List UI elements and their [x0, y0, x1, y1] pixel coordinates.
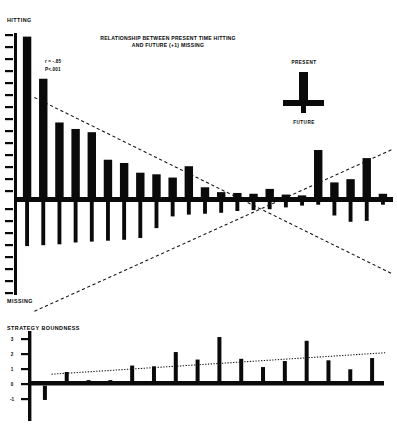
upper-bar-future: [284, 202, 288, 207]
lower-bar: [87, 380, 91, 381]
upper-bar-present: [314, 150, 322, 197]
upper-bar-future: [122, 202, 126, 240]
lower-ytick-2: 2: [11, 352, 14, 357]
upper-bar-present: [265, 189, 273, 197]
upper-bar-future: [365, 202, 369, 221]
lower-zero-baseline: [28, 381, 384, 386]
upper-bar-present: [39, 79, 47, 197]
upper-bar-future: [138, 202, 142, 238]
legend-present-bar: [299, 72, 308, 104]
upper-bar-present: [379, 194, 387, 197]
upper-bar-future: [74, 202, 78, 243]
lower-bar: [174, 352, 178, 381]
chart-title-line2: AND FUTURE (+1) MISSING: [132, 42, 204, 48]
legend-future-stem: [301, 104, 306, 113]
upper-bar-present: [104, 160, 112, 197]
correlation-annotation: r = -.85: [45, 59, 61, 64]
chart-title-line1: RELATIONSHIP BETWEEN PRESENT TIME HITTIN…: [100, 35, 235, 41]
lower-bar: [217, 337, 221, 381]
pvalue-annotation: P<.001: [45, 67, 61, 72]
upper-bar-present: [88, 132, 96, 197]
lower-ytick-3: 3: [11, 337, 14, 342]
upper-bar-present: [136, 173, 144, 197]
lower-bar: [130, 366, 134, 382]
lower-y-ticks: [21, 338, 28, 400]
upper-bar-future: [187, 202, 191, 215]
upper-bar-present: [23, 37, 31, 197]
upper-bar-present: [152, 174, 160, 197]
lower-bar: [283, 361, 287, 381]
lower-y-axis-spine: [28, 331, 31, 421]
upper-bar-present: [330, 182, 338, 197]
upper-bar-future: [155, 202, 159, 228]
upper-bar-future: [349, 202, 353, 222]
chart-svg: HITTING RELATIONSHIP BETWEEN PRESENT TIM…: [0, 0, 397, 431]
upper-bar-future: [300, 202, 304, 206]
lower-bar: [196, 360, 200, 382]
lower-bar: [261, 367, 265, 381]
legend-key: PRESENT FUTURE: [283, 60, 324, 125]
bottom-axis-label: MISSING: [7, 298, 33, 304]
upper-bar-future: [90, 202, 94, 242]
upper-bar-present: [55, 122, 63, 197]
upper-bar-future: [203, 202, 207, 214]
upper-bar-present: [363, 158, 371, 197]
upper-bar-present: [346, 179, 354, 197]
lower-bar: [326, 360, 330, 381]
upper-bar-future: [106, 202, 110, 241]
upper-y-axis-spine: [14, 33, 17, 295]
legend-label-future: FUTURE: [293, 120, 315, 125]
lower-bar: [305, 341, 309, 382]
upper-bar-future: [171, 202, 175, 216]
upper-panel-trendlines: [34, 97, 392, 311]
upper-bar-future: [41, 202, 45, 245]
top-axis-label: HITTING: [7, 17, 32, 23]
lower-bar: [152, 366, 156, 381]
upper-bar-present: [120, 163, 128, 197]
upper-bar-present: [298, 195, 306, 197]
upper-bar-present: [168, 178, 176, 197]
upper-y-ticks: [5, 34, 13, 294]
upper-bar-present: [217, 192, 225, 197]
figure-container: HITTING RELATIONSHIP BETWEEN PRESENT TIM…: [0, 0, 397, 431]
upper-bar-present: [185, 166, 193, 197]
lower-bar: [370, 358, 374, 381]
lower-bar: [348, 369, 352, 381]
upper-bar-present: [249, 194, 257, 197]
lower-bar-negative: [43, 386, 47, 400]
lower-bar: [108, 380, 112, 381]
upper-bar-future: [25, 202, 29, 246]
legend-label-present: PRESENT: [291, 60, 316, 65]
upper-bar-future: [235, 202, 239, 211]
upper-bar-future: [316, 202, 320, 205]
lower-axis-label: STRATEGY BOUNDNESS: [7, 325, 80, 331]
lower-axis-group: 3 2 1 0 -1: [10, 331, 31, 421]
lower-ytick-neg1: -1: [10, 397, 15, 402]
upper-bar-future: [332, 202, 336, 216]
lower-panel-bars: [43, 337, 374, 400]
upper-panel-bars: [23, 37, 387, 246]
lower-ytick-0: 0: [11, 382, 14, 387]
upper-axis-group: [5, 33, 17, 295]
upper-zero-baseline: [14, 197, 393, 202]
upper-bar-future: [381, 202, 385, 205]
lower-ytick-1: 1: [11, 367, 14, 372]
upper-bar-present: [71, 129, 79, 197]
upper-bar-present: [201, 187, 209, 197]
upper-bar-future: [58, 202, 62, 244]
upper-bar-future: [219, 202, 223, 213]
